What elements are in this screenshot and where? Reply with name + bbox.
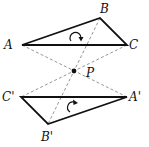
center-point-p [72, 69, 77, 74]
label-a: A [3, 38, 13, 52]
label-c: C [129, 38, 138, 52]
rotation-arrow-bottom-icon [68, 100, 78, 113]
label-b: B [99, 2, 109, 16]
label-p: P [85, 66, 95, 80]
label-c-prime: C' [2, 90, 14, 104]
rotation-arrow-top-icon [70, 32, 83, 41]
triangle-abc [22, 18, 127, 45]
label-a-prime: A' [128, 90, 141, 104]
label-b-prime: B' [40, 130, 53, 144]
rotation-diagram: A B C P A' B' C' [0, 0, 149, 147]
